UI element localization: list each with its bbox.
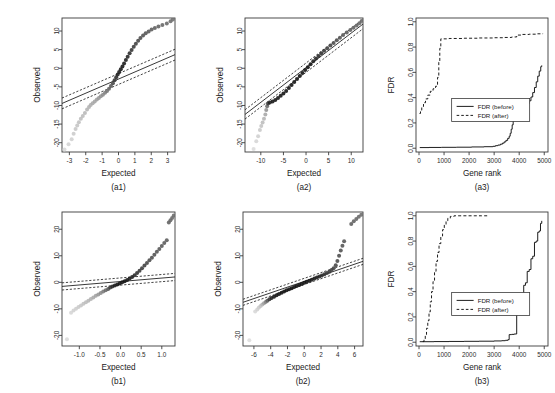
x-tick-label: 5 <box>327 157 331 164</box>
y-tick-label: 10 <box>236 27 243 35</box>
x-tick-label: 0 <box>417 157 421 164</box>
x-tick-label: 4000 <box>512 351 527 358</box>
x-axis-title: Expected <box>101 169 136 178</box>
x-tick-label: 3 <box>166 157 170 164</box>
data-point <box>254 139 258 143</box>
series-after <box>423 216 489 342</box>
x-tick-label: 0 <box>302 351 306 358</box>
x-tick-label: 10 <box>348 157 356 164</box>
legend-label: FDR (after) <box>478 112 509 119</box>
plot-b3: 0100020003000400050000.00.20.40.60.81.0G… <box>370 196 555 393</box>
y-tick-label: -5 <box>236 84 243 90</box>
y-tick-label: 0.6 <box>407 261 414 270</box>
y-tick-label: 0 <box>53 66 60 70</box>
plot-frame <box>62 18 175 152</box>
x-axis-title: Gene rank <box>463 363 502 372</box>
data-point <box>165 238 169 242</box>
x-axis-title: Expected <box>287 169 322 178</box>
y-tick-label: 10 <box>53 252 60 260</box>
data-point <box>309 62 313 66</box>
x-tick-label: -2 <box>83 157 89 164</box>
data-point <box>263 112 267 116</box>
x-tick-label: 4000 <box>512 157 527 164</box>
x-axis-title: Expected <box>286 363 321 372</box>
x-tick-label: -1 <box>99 157 105 164</box>
y-tick-label: 0.2 <box>407 118 414 127</box>
x-tick-label: 2 <box>149 157 153 164</box>
reference-line <box>62 55 175 104</box>
data-point <box>342 239 346 243</box>
data-point <box>171 17 175 21</box>
data-point <box>261 121 265 125</box>
y-tick-label: 0.0 <box>407 337 414 346</box>
confidence-band-line <box>62 60 175 109</box>
data-point <box>160 23 164 27</box>
y-tick-label: 0 <box>234 280 241 284</box>
y-tick-label: 0 <box>236 66 243 70</box>
y-tick-label: -15 <box>236 119 243 129</box>
data-point <box>65 337 69 341</box>
data-point <box>303 68 307 72</box>
data-point <box>337 254 341 258</box>
data-point <box>256 134 260 138</box>
data-point <box>341 33 345 37</box>
data-point <box>128 51 132 55</box>
data-point <box>335 259 339 263</box>
data-point <box>292 80 296 84</box>
data-point <box>153 26 157 30</box>
y-tick-label: -20 <box>236 138 243 148</box>
x-tick-label: 1000 <box>437 157 452 164</box>
data-point <box>67 142 71 146</box>
y-tick-label: 10 <box>234 252 241 260</box>
x-tick-label: -4 <box>268 351 274 358</box>
y-tick-label: 1.0 <box>407 17 414 26</box>
data-point <box>83 111 87 115</box>
x-tick-label: 2 <box>319 351 323 358</box>
data-point <box>300 71 304 75</box>
y-tick-label: 0.8 <box>407 42 414 51</box>
figure-container: -3-2-101231050-5-10-15-20ExpectedObserve… <box>0 0 555 393</box>
y-tick-label: -5 <box>53 84 60 90</box>
y-tick-label: 0.0 <box>407 143 414 152</box>
y-tick-label: -10 <box>53 100 60 110</box>
data-point <box>264 108 268 112</box>
y-tick-label: 0.8 <box>407 236 414 245</box>
y-axis-title: Observed <box>33 261 42 297</box>
panel-b1: -1.0-0.50.00.51.020100-10-20ExpectedObse… <box>0 196 185 393</box>
x-tick-label: -5 <box>281 157 287 164</box>
data-point <box>359 213 363 217</box>
x-tick-label: -3 <box>67 157 73 164</box>
data-point <box>335 38 339 42</box>
data-point <box>322 49 326 53</box>
panel-b2: -6-4-2024620100-10-20ExpectedObserved(b2… <box>185 196 370 393</box>
x-tick-label: -0.5 <box>94 351 105 358</box>
y-tick-label: -20 <box>53 330 60 340</box>
y-tick-label: -20 <box>53 138 60 148</box>
plot-b1: -1.0-0.50.00.51.020100-10-20ExpectedObse… <box>0 196 185 393</box>
panel-tag: (b1) <box>111 377 126 386</box>
x-tick-label: 4 <box>336 351 340 358</box>
legend-label: FDR (before) <box>478 103 514 110</box>
x-tick-label: 0 <box>304 157 308 164</box>
x-axis-title: Expected <box>101 363 136 372</box>
panel-tag: (a3) <box>475 183 490 192</box>
y-tick-label: 0.2 <box>407 312 414 321</box>
series-before <box>420 221 542 342</box>
x-tick-label: -10 <box>256 157 266 164</box>
x-tick-label: -6 <box>251 351 257 358</box>
panel-a1: -3-2-101231050-5-10-15-20ExpectedObserve… <box>0 0 185 196</box>
x-tick-label: 2000 <box>462 157 477 164</box>
panel-tag: (b2) <box>296 377 311 386</box>
y-tick-label: 20 <box>234 225 241 233</box>
legend-label: FDR (before) <box>478 297 514 304</box>
y-tick-label: 10 <box>53 27 60 35</box>
x-tick-label: 2000 <box>462 351 477 358</box>
y-axis-title: Observed <box>33 67 42 103</box>
y-axis-title: Observed <box>214 261 223 297</box>
y-axis-title: FDR <box>387 77 396 94</box>
data-point <box>130 48 134 52</box>
data-point <box>340 244 344 248</box>
y-tick-label: -20 <box>234 330 241 340</box>
data-point <box>126 55 130 59</box>
y-tick-label: 1.0 <box>407 211 414 220</box>
